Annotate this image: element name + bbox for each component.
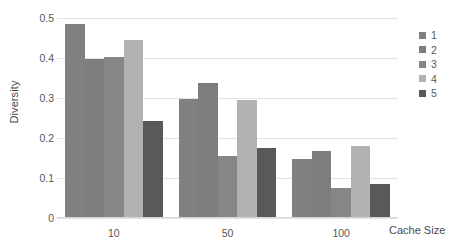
bar bbox=[351, 146, 371, 218]
y-axis-tick-label: 0.5 bbox=[20, 13, 54, 24]
legend-item[interactable]: 5 bbox=[419, 86, 455, 101]
y-axis-tick-label: 0.2 bbox=[20, 133, 54, 144]
bar bbox=[85, 59, 105, 218]
x-axis-tick-label: 50 bbox=[208, 228, 248, 239]
y-axis-tick-label: 0 bbox=[20, 213, 54, 224]
legend-label: 2 bbox=[431, 45, 437, 56]
bar-chart: Diversity 0.50.40.30.20.10 1050100 Cache… bbox=[0, 0, 455, 248]
legend-swatch-icon bbox=[419, 46, 426, 53]
legend-label: 5 bbox=[431, 88, 437, 99]
legend-item[interactable]: 2 bbox=[419, 43, 455, 58]
bar bbox=[143, 121, 163, 218]
x-axis-tick-label: 100 bbox=[321, 228, 361, 239]
legend-swatch-icon bbox=[419, 61, 426, 68]
bar bbox=[124, 40, 144, 218]
bar-group bbox=[171, 18, 285, 218]
bar bbox=[292, 159, 312, 218]
legend-swatch-icon bbox=[419, 90, 426, 97]
gridline bbox=[57, 218, 398, 219]
bar bbox=[198, 83, 218, 218]
x-axis-tick-label: 10 bbox=[94, 228, 134, 239]
bar bbox=[104, 57, 124, 218]
bar bbox=[257, 148, 277, 218]
bar bbox=[331, 188, 351, 218]
x-axis-title: Cache Size bbox=[389, 224, 445, 236]
y-axis-tick-label: 0.3 bbox=[20, 93, 54, 104]
legend-swatch-icon bbox=[419, 32, 426, 39]
y-axis-tick-label: 0.1 bbox=[20, 173, 54, 184]
y-axis-tick-labels: 0.50.40.30.20.10 bbox=[18, 0, 54, 248]
legend-label: 3 bbox=[431, 59, 437, 70]
bar-group bbox=[57, 18, 171, 218]
axis-baseline bbox=[57, 217, 398, 218]
bar bbox=[179, 99, 199, 218]
bar bbox=[370, 184, 390, 218]
legend-label: 4 bbox=[431, 74, 437, 85]
legend-swatch-icon bbox=[419, 75, 426, 82]
legend-item[interactable]: 1 bbox=[419, 28, 455, 43]
bar bbox=[312, 151, 332, 218]
plot-area bbox=[57, 18, 398, 218]
bar bbox=[237, 100, 257, 218]
bar bbox=[218, 156, 238, 218]
bar-group bbox=[284, 18, 398, 218]
legend-item[interactable]: 4 bbox=[419, 72, 455, 87]
legend-label: 1 bbox=[431, 30, 437, 41]
y-axis-tick-label: 0.4 bbox=[20, 53, 54, 64]
legend-item[interactable]: 3 bbox=[419, 57, 455, 72]
chart-legend: 12345 bbox=[419, 28, 455, 101]
bar bbox=[65, 24, 85, 218]
